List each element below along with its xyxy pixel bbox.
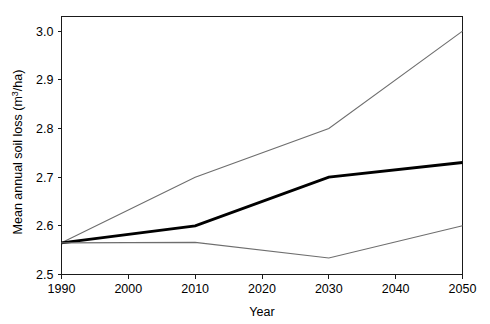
y-axis-title-prefix: Mean annual soil loss (m [11, 96, 25, 234]
y-axis-tick-label: 3.0 [36, 25, 53, 39]
chart-plot-area: 2.52.62.72.82.93.0 199020002010202020302… [0, 0, 490, 324]
x-axis-title: Year [249, 305, 274, 319]
y-axis-tick-label: 2.7 [36, 171, 53, 185]
y-axis-tick-label: 2.8 [36, 122, 53, 136]
x-axis-tick-label: 1990 [48, 282, 76, 296]
x-axis-tick-label: 2000 [114, 282, 142, 296]
x-axis-tick-labels: 1990200020102020203020402050 [48, 282, 477, 296]
x-axis-tick-label: 2010 [181, 282, 209, 296]
chart-container: 2.52.62.72.82.93.0 199020002010202020302… [0, 0, 490, 324]
series-line-lower-bound [62, 226, 463, 258]
data-series-group [62, 31, 463, 258]
y-axis-title-suffix: /ha) [11, 70, 25, 92]
y-axis-tick-label: 2.9 [36, 73, 53, 87]
y-axis-tick-labels: 2.52.62.72.82.93.0 [36, 25, 53, 282]
x-axis-tick-label: 2030 [315, 282, 343, 296]
x-axis-tick-label: 2040 [382, 282, 410, 296]
y-axis-title: Mean annual soil loss (m3/ha) [10, 70, 25, 235]
series-line-mean [62, 163, 463, 243]
axis-tick-marks [58, 31, 463, 278]
y-axis-tick-label: 2.6 [36, 219, 53, 233]
x-axis-tick-label: 2020 [248, 282, 276, 296]
y-axis-tick-label: 2.5 [36, 268, 53, 282]
series-line-upper-bound [62, 31, 463, 243]
x-axis-tick-label: 2050 [449, 282, 477, 296]
